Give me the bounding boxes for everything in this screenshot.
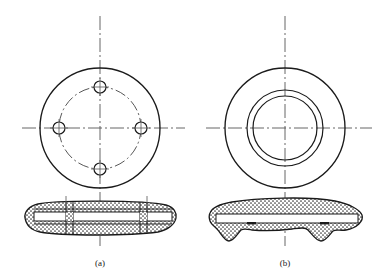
section-b-tick-right	[320, 222, 329, 224]
drawing-svg: (a) (b)	[0, 0, 389, 277]
engineering-drawing-canvas: (a) (b)	[0, 0, 389, 277]
section-b-internals	[216, 214, 358, 224]
section-a-group	[25, 196, 176, 235]
section-b-tick-left	[247, 222, 256, 224]
caption-b: (b)	[280, 258, 291, 268]
caption-a: (a)	[95, 258, 105, 268]
section-b-group	[209, 198, 362, 241]
section-a-plug-left	[66, 212, 73, 221]
bolt-hole-right-a	[132, 119, 150, 137]
section-b-cavity	[216, 214, 358, 223]
bolt-hole-left-a	[50, 119, 68, 137]
bolt-hole-top-a	[91, 78, 109, 96]
section-a-cavity	[34, 212, 172, 221]
section-a-plug-right	[140, 212, 147, 221]
bolt-hole-bottom-a	[91, 160, 109, 178]
